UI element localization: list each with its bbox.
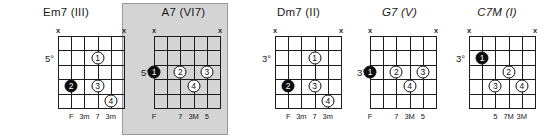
interval-label: 7 (313, 113, 317, 121)
interval-label: 3M (517, 113, 527, 121)
muted-string-marker: x (339, 27, 343, 35)
muted-string-marker: x (152, 27, 156, 35)
finger-dot: 2 (390, 66, 403, 79)
interval-label: 7 (394, 113, 398, 121)
interval-label: F (286, 113, 291, 121)
fret-line (154, 108, 221, 109)
interval-label: F (152, 113, 157, 121)
interval-label: 3m (296, 113, 306, 121)
string-line (71, 36, 72, 109)
fret-line (154, 50, 221, 51)
string-line (288, 36, 289, 109)
chord-title: C7M (I) (447, 6, 547, 18)
interval-label: 7 (96, 113, 100, 121)
finger-dot: 1 (364, 66, 377, 79)
fret-line (58, 50, 125, 51)
string-line (167, 36, 168, 109)
chord-title: Em7 (III) (10, 6, 122, 18)
finger-dot: 4 (515, 80, 528, 93)
string-line (301, 36, 302, 109)
fret-line (58, 36, 125, 37)
finger-dot: 4 (403, 80, 416, 93)
fret-line (370, 108, 437, 109)
chord-diagram: G7 (V)xx3°1234F73M5 (352, 0, 447, 138)
fret-line (58, 108, 125, 109)
fret-line (275, 65, 342, 66)
fret-position-marker: 3° (443, 53, 465, 64)
interval-label: 7M (503, 113, 513, 121)
string-line (436, 36, 437, 109)
fret-position-marker: 5° (32, 53, 54, 64)
chord-sheet: Em7 (III)xx5°1234F3m73mA7 (VI7)xx5°1234F… (0, 0, 547, 138)
string-line (58, 36, 59, 109)
fret-line (469, 65, 536, 66)
muted-string-marker: x (533, 27, 537, 35)
finger-dot: 4 (104, 94, 117, 107)
finger-dot: 3 (416, 66, 429, 79)
fret-line (370, 65, 437, 66)
fret-line (370, 94, 437, 95)
fret-line (370, 36, 437, 37)
fret-line (275, 108, 342, 109)
finger-dot: 1 (91, 51, 104, 64)
muted-string-marker: x (56, 27, 60, 35)
muted-string-marker: x (368, 27, 372, 35)
string-line (341, 36, 342, 109)
interval-label: F (69, 113, 74, 121)
string-line (522, 36, 523, 109)
muted-string-marker: x (467, 27, 471, 35)
fret-line (469, 36, 536, 37)
finger-dot: 3 (91, 80, 104, 93)
interval-label: 5 (205, 113, 209, 121)
finger-dot: 4 (321, 94, 334, 107)
finger-dot: 3 (489, 80, 502, 93)
interval-label: 3M (188, 113, 198, 121)
interval-label: 3M (404, 113, 414, 121)
string-line (194, 36, 195, 109)
chord-diagram: A7 (VI7)xx5°1234F73M5 (122, 0, 245, 138)
finger-dot: 2 (65, 80, 78, 93)
chord-title: A7 (VI7) (122, 6, 245, 18)
fret-line (469, 108, 536, 109)
string-line (275, 36, 276, 109)
string-line (98, 36, 99, 109)
interval-label: 3m (323, 113, 333, 121)
fret-line (154, 94, 221, 95)
interval-label: 3m (79, 113, 89, 121)
string-line (84, 36, 85, 109)
finger-dot: 2 (502, 66, 515, 79)
fret-line (370, 50, 437, 51)
finger-dot: 4 (187, 80, 200, 93)
fret-line (275, 50, 342, 51)
interval-label: 5 (493, 113, 497, 121)
muted-string-marker: x (434, 27, 438, 35)
interval-label: 5 (421, 113, 425, 121)
string-line (495, 36, 496, 109)
fret-line (275, 36, 342, 37)
interval-label: 3m (106, 113, 116, 121)
chord-diagram: Dm7 (II)xx3°1234F3m73m (245, 0, 352, 138)
fret-line (469, 79, 536, 80)
muted-string-marker: x (218, 27, 222, 35)
interval-label: F (368, 113, 373, 121)
string-line (410, 36, 411, 109)
chord-diagram: Em7 (III)xx5°1234F3m73m (10, 0, 122, 138)
chord-diagram: C7M (I)xx3°123457M3M (447, 0, 547, 138)
interval-label: 7 (178, 113, 182, 121)
fret-line (154, 79, 221, 80)
fret-line (469, 94, 536, 95)
fret-line (58, 65, 125, 66)
finger-dot: 2 (174, 66, 187, 79)
finger-dot: 2 (282, 80, 295, 93)
finger-dot: 1 (148, 66, 161, 79)
string-line (383, 36, 384, 109)
finger-dot: 1 (308, 51, 321, 64)
string-line (482, 36, 483, 109)
fret-position-marker: 3° (249, 53, 271, 64)
string-line (315, 36, 316, 109)
string-line (535, 36, 536, 109)
chord-title: G7 (V) (352, 6, 447, 18)
fret-line (154, 65, 221, 66)
string-line (469, 36, 470, 109)
fret-line (370, 79, 437, 80)
